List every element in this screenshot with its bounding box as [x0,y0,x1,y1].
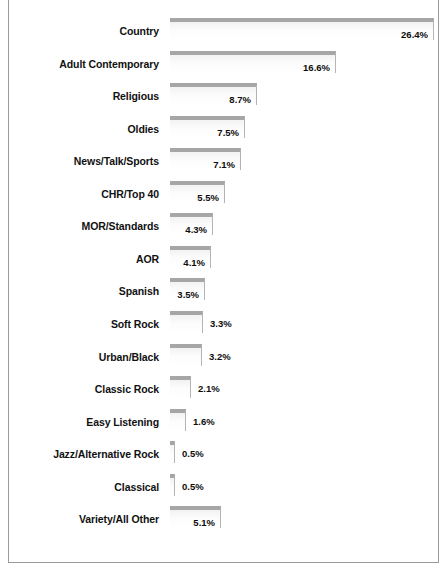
bar-row: Classic Rock2.1% [9,373,438,406]
category-label: AOR [9,243,159,276]
bar[interactable]: 4.3% [170,213,213,235]
bar-row: Spanish3.5% [9,275,438,308]
bar-row: News/Talk/Sports7.1% [9,145,438,178]
bar-row: CHR/Top 405.5% [9,178,438,211]
bar-row: Soft Rock3.3% [9,308,438,341]
bar-track: 5.5% [170,178,438,211]
bar[interactable] [170,344,202,366]
bar-value-label: 4.3% [185,221,207,239]
bar-row: Jazz/Alternative Rock0.5% [9,438,438,471]
bar-track: 0.5% [170,471,438,504]
bar-track: 16.6% [170,48,438,81]
bar-value-label: 5.5% [197,189,219,207]
bar-row: MOR/Standards4.3% [9,210,438,243]
bar[interactable]: 4.1% [170,246,211,268]
category-label: Country [9,15,159,48]
bar-track: 7.1% [170,145,438,178]
bar-value-label: 7.5% [217,124,239,142]
bar-track: 7.5% [170,113,438,146]
category-label: Classical [9,471,159,504]
bar[interactable]: 7.1% [170,148,241,170]
bar-value-label: 26.4% [401,26,428,44]
chart-plot-area: Country26.4%Adult Contemporary16.6%Relig… [9,0,438,562]
bar-track: 3.5% [170,275,438,308]
bar-row: Oldies7.5% [9,113,438,146]
category-label: Adult Contemporary [9,48,159,81]
bar[interactable]: 16.6% [170,51,336,73]
category-label: Soft Rock [9,308,159,341]
bar[interactable] [170,474,175,496]
category-label: Religious [9,80,159,113]
bar-value-label: 3.5% [177,286,199,304]
bar-track: 0.5% [170,438,438,471]
chart-frame: Country26.4%Adult Contemporary16.6%Relig… [8,0,439,563]
category-label: CHR/Top 40 [9,178,159,211]
category-label: News/Talk/Sports [9,145,159,178]
category-label: Urban/Black [9,341,159,374]
category-label: Classic Rock [9,373,159,406]
bar-value-label: 4.1% [183,254,205,272]
bar-value-label: 8.7% [229,91,251,109]
bar[interactable]: 3.5% [170,278,205,300]
bar-track: 1.6% [170,406,438,439]
bar-track: 8.7% [170,80,438,113]
bar-track: 4.3% [170,210,438,243]
bar-value-label: 3.2% [209,348,231,366]
bar-row: Country26.4% [9,15,438,48]
bar-track: 26.4% [170,15,438,48]
bar[interactable] [170,409,186,431]
bar-value-label: 3.3% [210,315,232,333]
bar-track: 3.3% [170,308,438,341]
category-label: Easy Listening [9,406,159,439]
bar[interactable] [170,376,191,398]
bar-row: Easy Listening1.6% [9,406,438,439]
bar-row: Variety/All Other5.1% [9,503,438,536]
bar[interactable]: 7.5% [170,116,245,138]
bar-value-label: 2.1% [198,380,220,398]
bar[interactable]: 26.4% [170,18,434,40]
bar-value-label: 0.5% [182,445,204,463]
category-label: MOR/Standards [9,210,159,243]
bar-track: 4.1% [170,243,438,276]
bar-track: 2.1% [170,373,438,406]
bar-row: AOR4.1% [9,243,438,276]
category-label: Jazz/Alternative Rock [9,438,159,471]
bar-row: Urban/Black3.2% [9,341,438,374]
bar[interactable] [170,441,175,463]
bar-row: Classical0.5% [9,471,438,504]
category-label: Oldies [9,113,159,146]
bar[interactable]: 5.1% [170,506,221,528]
bar-value-label: 5.1% [193,514,215,532]
bar-row: Adult Contemporary16.6% [9,48,438,81]
bar-value-label: 16.6% [303,59,330,77]
bar-value-label: 7.1% [213,156,235,174]
category-label: Spanish [9,275,159,308]
bar-value-label: 0.5% [182,478,204,496]
bar-track: 3.2% [170,341,438,374]
category-label: Variety/All Other [9,503,159,536]
bar[interactable]: 8.7% [170,83,257,105]
bar-track: 5.1% [170,503,438,536]
bar-value-label: 1.6% [193,413,215,431]
bar[interactable]: 5.5% [170,181,225,203]
bar[interactable] [170,311,203,333]
bar-row: Religious8.7% [9,80,438,113]
